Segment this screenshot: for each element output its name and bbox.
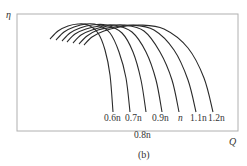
x-axis-label: Q bbox=[229, 137, 236, 147]
curve-label-0-7n: 0.7n bbox=[125, 114, 142, 124]
curve-label-0-8n: 0.8n bbox=[134, 131, 151, 141]
curve-0-9n bbox=[67, 25, 162, 112]
efficiency-curves bbox=[50, 24, 213, 112]
curve-label-1-1n: 1.1n bbox=[190, 114, 207, 124]
curve-0-7n bbox=[56, 24, 130, 112]
figure-caption: (b) bbox=[138, 150, 150, 160]
curve-label-1-2n: 1.2n bbox=[208, 114, 225, 124]
chart-canvas bbox=[0, 0, 247, 166]
curve-label-0-9n: 0.9n bbox=[152, 114, 169, 124]
curve-0-8n bbox=[62, 24, 146, 112]
curve-0-6n bbox=[50, 24, 113, 112]
y-axis-label: η bbox=[6, 10, 11, 20]
curve-label-n: n bbox=[178, 114, 183, 124]
curve-label-0-6n: 0.6n bbox=[104, 114, 121, 124]
